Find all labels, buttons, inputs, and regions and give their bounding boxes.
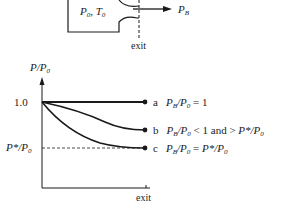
endpoint-c-icon <box>143 146 148 151</box>
arrow-head-icon <box>163 6 172 12</box>
tick-label-pstar: P*/P0 <box>6 142 32 155</box>
curve-c-label: cPB/P0 = P*/P0 <box>153 143 227 156</box>
tick-label-one: 1.0 <box>14 97 28 108</box>
curve-a-label: aPB/P0 = 1 <box>153 97 207 110</box>
y-axis-arrow-icon <box>40 77 45 85</box>
diagram-canvas <box>0 0 295 210</box>
y-axis-label: P/P0 <box>30 62 50 75</box>
endpoint-a-icon <box>143 100 148 105</box>
curve-b <box>42 102 145 130</box>
nozzle-upper-wall <box>119 0 139 6</box>
endpoint-b-icon <box>143 128 148 133</box>
exit-label-top: exit <box>131 41 146 51</box>
curve-c <box>42 102 145 148</box>
back-pressure-label: PB <box>178 4 189 17</box>
reservoir-state-label: P0, T0 <box>80 6 105 19</box>
curve-b-label: bPB/P0 < 1 and > P*/P0 <box>153 125 264 138</box>
x-axis-label: exit <box>136 193 151 203</box>
